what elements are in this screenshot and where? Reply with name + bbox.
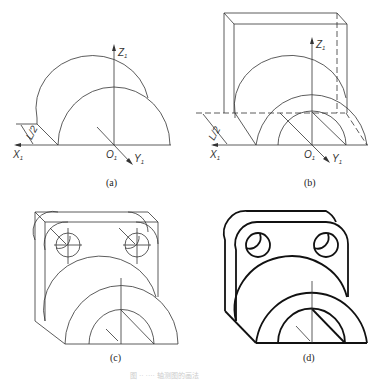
- front-inner-semicircle: [89, 309, 154, 344]
- x1-arrow-icon: [211, 143, 218, 147]
- panel-a-label: (a): [106, 177, 117, 189]
- front-inner-semicircle: [278, 308, 345, 343]
- panel-b: L/2 X1 Z1 O1 Y1 (b): [196, 13, 368, 189]
- back-outer-arc: [235, 256, 347, 321]
- back-outer-arc: [234, 55, 346, 113]
- plate-back-outline: [224, 13, 347, 113]
- z1-label: Z1: [117, 47, 127, 59]
- dimension-label: L/2: [206, 124, 222, 142]
- front-outer-semicircle: [65, 286, 178, 344]
- figure-caption: 图 ·· ···· 轴测图的画法: [130, 371, 199, 380]
- o1-label: O1: [304, 149, 315, 161]
- z1-label: Z1: [315, 39, 325, 51]
- y1-label: Y1: [332, 153, 342, 165]
- plate-left-edge: [35, 212, 65, 344]
- o1-label: O1: [106, 149, 117, 161]
- shift-line-center: [312, 112, 346, 145]
- plate-top-right: [148, 212, 158, 222]
- panel-d-label: (d): [303, 352, 315, 364]
- x1-arrow-icon: [14, 143, 21, 147]
- shift-line: [37, 124, 58, 145]
- panel-d: (d): [224, 211, 367, 364]
- technical-drawing: L/2 X1 Z1 O1 Y1 (a) L/2 X1: [0, 0, 385, 381]
- plate-back-outline: [224, 211, 336, 311]
- plate-edge: [224, 13, 234, 24]
- panel-c: (c): [33, 211, 178, 364]
- hole-left-back: [246, 234, 261, 249]
- front-outer-semicircle: [256, 95, 367, 145]
- bottom-left-edge: [225, 311, 256, 343]
- hole-right-back: [314, 234, 329, 249]
- shift-line-short: [106, 329, 118, 341]
- front-outer-semicircle: [256, 293, 367, 343]
- panel-c-label: (c): [110, 352, 121, 364]
- x1-label: X1: [12, 149, 23, 161]
- z1-arrow-icon: [112, 44, 116, 51]
- centerline: [50, 228, 66, 244]
- shift-line-short: [296, 326, 310, 341]
- panel-b-label: (b): [304, 177, 316, 189]
- z1-arrow-icon: [310, 37, 314, 44]
- dimension-label: L/2: [23, 123, 39, 141]
- panel-a: L/2 X1 Z1 O1 Y1 (a): [12, 44, 171, 189]
- x1-label: X1: [209, 149, 220, 161]
- shift-line: [121, 310, 154, 344]
- centerline: [119, 228, 135, 244]
- shift-line: [235, 113, 256, 145]
- y1-label: Y1: [134, 153, 144, 165]
